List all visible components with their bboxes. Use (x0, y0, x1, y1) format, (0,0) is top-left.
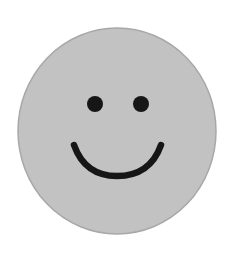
face-circle (18, 28, 216, 234)
right-eye (133, 96, 149, 112)
left-eye (87, 96, 103, 112)
smiley-face (0, 0, 242, 258)
smiley-face-icon (0, 0, 242, 258)
